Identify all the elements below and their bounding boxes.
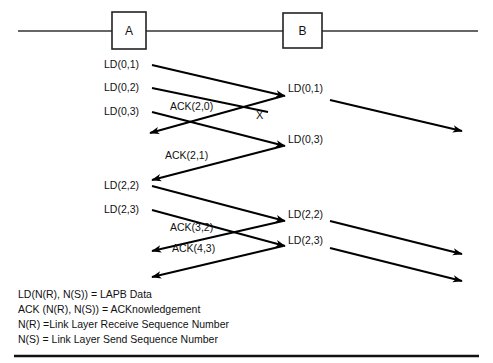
legend-line-ack: ACK (N(R), N(S)) = ACKnowledgement xyxy=(18,303,200,315)
legend: LD(N(R), N(S)) = LAPB Data ACK (N(R), N(… xyxy=(18,288,229,345)
arrow-ld-0-1-onward xyxy=(330,100,462,131)
node-b-label: B xyxy=(298,24,306,38)
arrow-ld-0-3-a-to-b xyxy=(152,112,285,146)
frame-label-left-ld-2-2: LD(2,2) xyxy=(104,179,139,191)
legend-line-ns: N(S) = Link Layer Send Sequence Number xyxy=(18,333,218,345)
node-b: B xyxy=(283,13,322,48)
node-a-label: A xyxy=(125,24,133,38)
frame-label-left-ld-0-1: LD(0,1) xyxy=(104,58,139,70)
node-a: A xyxy=(112,12,146,49)
lost-frame-x-marker: X xyxy=(256,109,264,121)
frame-label-ack-4-3: ACK(4,3) xyxy=(172,242,215,254)
frame-label-ack-2-0: ACK(2,0) xyxy=(170,100,213,112)
frame-label-right-ld-0-3: LD(0,3) xyxy=(288,133,323,145)
frame-label-left-ld-2-3: LD(2,3) xyxy=(104,203,139,215)
arrow-ld-2-3-onward xyxy=(330,248,462,281)
protocol-sequence-diagram: A B LD(0,1) LD(0,2) LD(0,3) LD(2,2) LD(2… xyxy=(0,0,493,363)
frame-label-right-ld-2-2: LD(2,2) xyxy=(288,208,323,220)
legend-line-nr: N(R) =Link Layer Receive Sequence Number xyxy=(18,318,229,330)
frame-label-ack-2-1: ACK(2,1) xyxy=(165,149,208,161)
arrow-ld-2-2-onward xyxy=(330,221,462,254)
frame-label-right-ld-0-1: LD(0,1) xyxy=(288,82,323,94)
legend-line-ld: LD(N(R), N(S)) = LAPB Data xyxy=(18,288,152,300)
frame-label-left-ld-0-3: LD(0,3) xyxy=(104,105,139,117)
frame-label-left-ld-0-2: LD(0,2) xyxy=(104,81,139,93)
frame-label-right-ld-2-3: LD(2,3) xyxy=(288,234,323,246)
frame-label-ack-3-2: ACK(3,2) xyxy=(170,221,213,233)
